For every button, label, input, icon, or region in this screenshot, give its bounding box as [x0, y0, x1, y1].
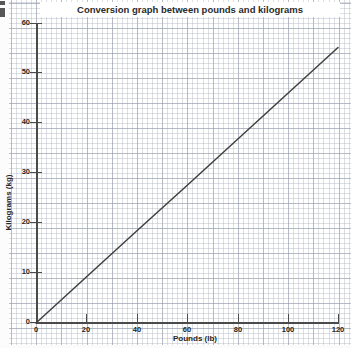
conversion-line-series: [36, 48, 338, 324]
chart-screenshot: Conversion graph between pounds and kilo…: [0, 0, 351, 348]
plot-area: [0, 0, 351, 348]
